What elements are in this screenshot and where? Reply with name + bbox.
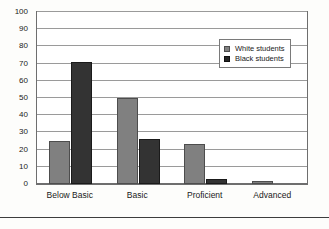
bar — [117, 98, 138, 184]
y-axis-tick-label: 0 — [24, 180, 28, 188]
legend-item: Black students — [224, 54, 285, 63]
y-axis: 1009080706050403020100 — [0, 11, 34, 185]
chart-legend: White students Black students — [219, 39, 291, 68]
bar — [184, 144, 205, 184]
bar — [71, 62, 92, 184]
legend-item: White students — [224, 44, 285, 53]
bar — [252, 181, 273, 184]
bar — [206, 179, 227, 184]
bottom-divider — [0, 217, 329, 218]
x-axis-tick-label: Below Basic — [36, 190, 104, 201]
y-axis-tick-label: 10 — [19, 163, 28, 171]
x-axis-tick-label: Proficient — [171, 190, 239, 201]
black-students-swatch — [224, 56, 230, 62]
x-axis-tick-label: Basic — [104, 190, 172, 201]
bar — [49, 141, 70, 184]
legend-item-label: White students — [235, 44, 285, 53]
x-axis: Below BasicBasicProficientAdvanced — [36, 190, 308, 206]
bar — [139, 139, 160, 184]
y-axis-tick-label: 70 — [19, 60, 28, 68]
y-axis-tick-label: 30 — [19, 128, 28, 136]
y-axis-tick-label: 100 — [15, 8, 28, 16]
y-axis-tick-label: 80 — [19, 42, 28, 50]
legend-item-label: Black students — [235, 54, 284, 63]
plot-area — [36, 11, 308, 185]
white-students-swatch — [224, 46, 230, 52]
y-axis-tick-label: 50 — [19, 94, 28, 102]
x-axis-tick-label: Advanced — [239, 190, 307, 201]
y-axis-tick-label: 90 — [19, 25, 28, 33]
y-axis-tick-label: 40 — [19, 111, 28, 119]
y-axis-tick-label: 20 — [19, 146, 28, 154]
bars-layer — [37, 12, 307, 184]
y-axis-tick-label: 60 — [19, 77, 28, 85]
grouped-bar-chart: 1009080706050403020100 Below BasicBasicP… — [0, 0, 329, 229]
